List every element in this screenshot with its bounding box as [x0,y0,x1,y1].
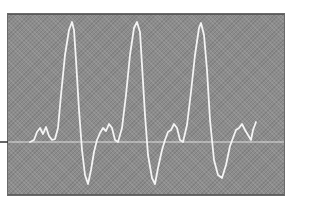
waveform-plot [0,0,309,211]
waveform-trace [30,22,256,184]
